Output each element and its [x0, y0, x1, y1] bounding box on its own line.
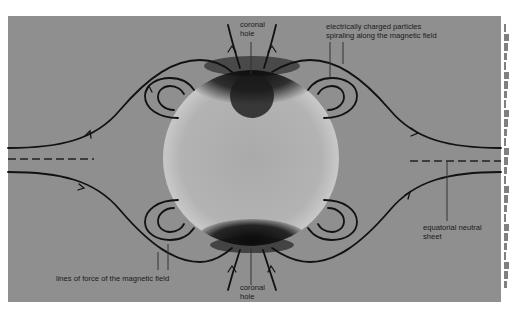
edge-text-fragment: [504, 233, 508, 241]
edge-text-fragment: [504, 281, 507, 289]
edge-text-fragment: [504, 167, 507, 175]
edge-text-fragment: [504, 91, 507, 99]
edge-text-fragment: [504, 62, 506, 70]
edge-text-fragment: [504, 205, 507, 213]
edge-text-fragment: [504, 100, 506, 108]
edge-text-fragment: [504, 271, 508, 279]
edge-text-fragment: [504, 43, 508, 51]
edge-text-fragment: [504, 224, 509, 232]
edge-text-fragment: [504, 214, 506, 222]
solar-magnetic-field-diagram: coronal hole electrically charged partic…: [0, 0, 516, 313]
edge-text-fragment: [504, 24, 506, 32]
edge-text-fragment: [504, 119, 508, 127]
edge-text-fragment: [504, 53, 507, 61]
edge-text-fragment: [504, 262, 509, 270]
edge-text-fragment: [504, 195, 508, 203]
edge-text-fragment: [504, 138, 506, 146]
edge-text-fragment: [504, 157, 508, 165]
cropped-adjacent-text-column: [504, 24, 516, 309]
edge-text-fragment: [504, 129, 507, 137]
edge-text-fragment: [504, 72, 509, 80]
edge-text-fragment: [504, 186, 509, 194]
edge-text-fragment: [504, 176, 506, 184]
label-lines-of-force: lines of force of the magnetic field: [56, 274, 169, 283]
label-charged-particles: electrically charged particles spiraling…: [326, 22, 437, 40]
edge-text-fragment: [504, 252, 506, 260]
edge-text-fragment: [504, 243, 507, 251]
edge-text-fragment: [504, 148, 509, 156]
edge-text-fragment: [504, 110, 509, 118]
edge-text-fragment: [504, 81, 508, 89]
edge-text-fragment: [504, 34, 509, 42]
